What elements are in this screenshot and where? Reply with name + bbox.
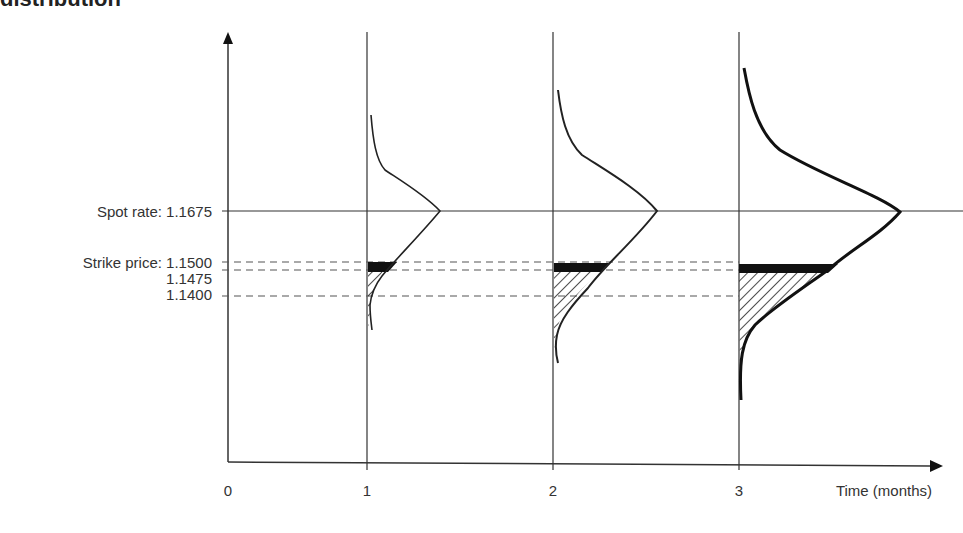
y-axis-arrow-icon	[223, 32, 233, 44]
level-1475-label: 1.1475	[166, 270, 212, 287]
spot-rate-label: Spot rate: 1.1675	[97, 203, 212, 220]
distribution-diagram: Spot rate: 1.1675 Strike price: 1.1500 1…	[0, 0, 963, 533]
x-tick-3: 3	[735, 482, 743, 499]
filled-band-month-2	[554, 263, 609, 272]
x-tick-2: 2	[549, 482, 557, 499]
level-1400-label: 1.1400	[166, 286, 212, 303]
x-tick-1: 1	[363, 482, 371, 499]
distribution-curve-month-2	[556, 90, 657, 363]
y-axis	[223, 32, 233, 462]
strike-price-label: Strike price: 1.1500	[83, 254, 212, 271]
strike-levels	[222, 262, 739, 296]
hatched-area-month-2	[550, 270, 610, 360]
x-tick-0: 0	[224, 482, 232, 499]
distribution-curve-month-1	[370, 115, 440, 330]
x-axis	[228, 460, 943, 472]
distribution-curve-month-3	[740, 68, 900, 400]
hatched-area-month-1	[360, 270, 400, 340]
x-axis-arrow-icon	[930, 460, 943, 472]
x-axis-label: Time (months)	[836, 482, 932, 499]
